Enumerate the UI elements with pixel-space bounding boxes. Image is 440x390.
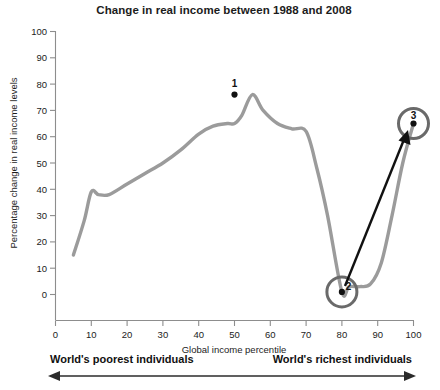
x-tick-label: 50 xyxy=(229,329,240,340)
y-tick-label: 0 xyxy=(42,289,47,300)
x-tick-label: 10 xyxy=(86,329,97,340)
x-tick-label: 20 xyxy=(122,329,133,340)
arrow-up-right-icon xyxy=(345,130,411,286)
chart-container: Change in real income between 1988 and 2… xyxy=(0,0,440,390)
x-tick-label: 30 xyxy=(158,329,169,340)
marker-label-1: 1 xyxy=(232,78,238,89)
x-tick-label: 0 xyxy=(53,329,58,340)
x-tick-label: 80 xyxy=(337,329,348,340)
y-tick-label: 80 xyxy=(36,79,47,90)
marker-label-3: 3 xyxy=(411,110,417,121)
y-tick-label: 40 xyxy=(36,184,47,195)
x-axis-ticks: 0 10 20 30 40 50 60 70 80 90 100 xyxy=(53,321,422,341)
y-tick-label: 10 xyxy=(36,263,47,274)
income-change-line-chart: 100 90 80 70 60 50 40 30 20 10 0 xyxy=(0,0,440,390)
x-tick-label: 90 xyxy=(372,329,383,340)
richest-label: World's richest individuals xyxy=(273,353,412,365)
y-tick-label: 90 xyxy=(36,52,47,63)
y-tick-label: 70 xyxy=(36,105,47,116)
x-tick-label: 70 xyxy=(301,329,312,340)
x-tick-label: 100 xyxy=(406,329,422,340)
y-tick-label: 100 xyxy=(31,26,47,37)
y-axis-ticks: 100 90 80 70 60 50 40 30 20 10 0 xyxy=(31,26,55,300)
x-axis-title: Global income percentile xyxy=(182,344,287,355)
arrow-left-icon xyxy=(48,371,60,381)
range-double-arrow xyxy=(48,371,416,381)
arrow-right-icon xyxy=(404,371,416,381)
marker-dot-3 xyxy=(410,120,416,126)
y-tick-label: 50 xyxy=(36,158,47,169)
y-tick-label: 20 xyxy=(36,236,47,247)
y-tick-label: 60 xyxy=(36,131,47,142)
income-change-curve xyxy=(73,95,413,297)
x-tick-label: 60 xyxy=(265,329,276,340)
marker-dot-1 xyxy=(231,92,237,98)
poorest-label: World's poorest individuals xyxy=(50,353,194,365)
y-axis-title: Percentage change in real income levels xyxy=(8,77,19,248)
x-tick-label: 40 xyxy=(193,329,204,340)
marker-dot-2 xyxy=(339,289,345,295)
y-tick-label: 30 xyxy=(36,210,47,221)
marker-label-2: 2 xyxy=(346,281,352,292)
